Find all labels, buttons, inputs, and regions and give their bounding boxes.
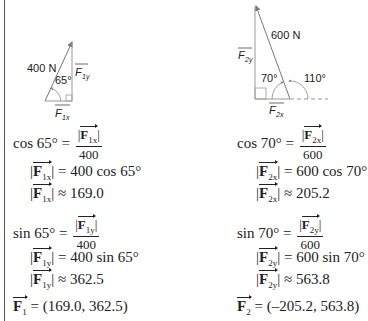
- right-angle-marker: [255, 88, 266, 99]
- angle-label-70: 70°: [261, 72, 278, 84]
- eq-f1x-value: |F1x| ≈ 169.0: [30, 186, 104, 204]
- svg-text:2y: 2y: [244, 56, 253, 64]
- vector-f2-arrow: [256, 6, 290, 99]
- eq-f1x-formula: |F1x| = 400 cos 65°: [30, 164, 141, 182]
- eq-f2y-formula: |F2y| = 600 sin 70°: [256, 250, 365, 268]
- eq-cos65: cos 65° = |F1x|400: [13, 128, 102, 161]
- angle-label-65: 65°: [55, 74, 72, 86]
- label-f1x: F 1x: [55, 105, 70, 121]
- magnitude-label-400n: 400 N: [27, 62, 56, 74]
- svg-text:2x: 2x: [275, 111, 284, 118]
- eq-sin65: sin 65° = |F1y|400: [13, 218, 99, 251]
- angle-label-110: 110°: [304, 72, 326, 84]
- label-f1y: F 1y: [75, 64, 90, 81]
- eq-f1y-formula: |F1y| = 400 sin 65°: [30, 250, 139, 268]
- angle-arc-65: [51, 88, 61, 101]
- triangle-f1: 400 N 65° F 1y F 1x: [27, 42, 90, 121]
- label-f2y: F 2y: [238, 48, 253, 64]
- eq-f1y-value: |F1y| ≈ 362.5: [30, 272, 104, 290]
- eq-f2y-value: |F2y| ≈ 563.8: [256, 272, 330, 290]
- eq-cos70: cos 70° = |F2x|600: [237, 128, 326, 161]
- magnitude-label-600n: 600 N: [271, 29, 300, 41]
- eq-f2-result: F2 = (–205.2, 563.8): [237, 299, 359, 317]
- triangle-f2: 600 N 70° 110° F 2y F 2x: [238, 6, 328, 118]
- angle-arc-70: [272, 82, 283, 99]
- svg-text:1x: 1x: [62, 114, 70, 121]
- eq-f1-result: F1 = (169.0, 362.5): [13, 299, 128, 317]
- right-angle-marker: [66, 95, 72, 101]
- eq-sin70: sin 70° = |F2y|600: [237, 218, 323, 251]
- label-f2x: F 2x: [269, 103, 284, 118]
- force-diagrams: 400 N 65° F 1y F 1x 600 N 70° 110° F 2y: [0, 0, 368, 125]
- eq-f2x-value: |F2x| ≈ 205.2: [256, 186, 330, 204]
- eq-f2x-formula: |F2x| = 600 cos 70°: [256, 164, 367, 182]
- svg-text:1y: 1y: [82, 73, 90, 81]
